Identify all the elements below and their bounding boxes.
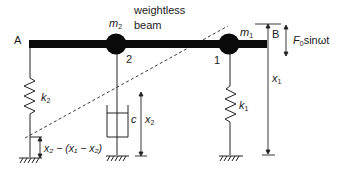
label-mass-m2: m2	[109, 18, 122, 30]
label-force: F0sinωt	[293, 35, 329, 47]
label-spring-k1: k1	[239, 100, 248, 112]
deflection-arrow-left	[38, 137, 42, 158]
label-beam-line1: weightless	[134, 5, 185, 16]
ground-support-right	[219, 156, 243, 161]
label-spring2-deflection: x₂ − (x₁ − x₂)	[44, 143, 102, 154]
label-node-1: 1	[214, 55, 220, 66]
label-damper-c: c	[131, 114, 137, 125]
spring-k2	[24, 48, 35, 138]
beam-vibration-diagram: A B weightless beam m2 m1 2 1 k2 k1 c x2…	[0, 0, 340, 176]
label-displacement-x2: x2	[145, 114, 154, 126]
damper-c	[107, 54, 128, 155]
label-node-2: 2	[126, 54, 132, 65]
label-mass-m1: m1	[240, 27, 253, 39]
spring-k1	[225, 54, 236, 155]
label-displacement-x1: x1	[272, 73, 281, 85]
mass-m2	[106, 34, 127, 55]
mass-m1	[219, 34, 240, 55]
ground-support-damper	[106, 156, 129, 161]
label-beam-line2: beam	[134, 20, 162, 31]
label-point-b: B	[272, 29, 279, 40]
force-arrow	[284, 25, 288, 56]
label-spring-k2: k2	[41, 92, 50, 104]
label-point-a: A	[14, 35, 21, 46]
